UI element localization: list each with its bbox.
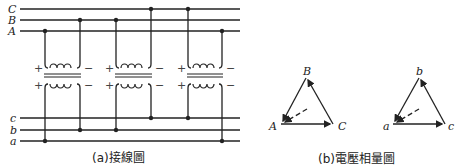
svg-text:−: −: [84, 62, 93, 75]
svg-text:+: +: [105, 79, 114, 92]
svg-text:−: −: [226, 79, 235, 92]
phasor-label-b: b: [416, 65, 423, 78]
bus-label-A: A: [7, 25, 16, 38]
caption-wiring: (a)接線圖: [92, 148, 145, 165]
phasor-label-C: C: [338, 120, 347, 133]
bus-label-a: a: [10, 135, 17, 148]
phasor-label-B: B: [302, 65, 311, 78]
svg-text:+: +: [34, 62, 43, 75]
phasor-label-c: c: [448, 120, 454, 133]
svg-text:−: −: [155, 79, 164, 92]
phasor-label-A: A: [268, 120, 277, 133]
svg-text:+: +: [34, 79, 43, 92]
wiring-diagram: C B A c b a + − + − + − + − + − + − B A …: [0, 0, 458, 167]
svg-text:−: −: [155, 62, 164, 75]
phasor-primary: [281, 78, 333, 124]
svg-text:−: −: [226, 62, 235, 75]
phasor-secondary: [393, 78, 445, 124]
svg-text:+: +: [105, 62, 114, 75]
phasor-label-a: a: [383, 120, 390, 133]
junction-dots: [43, 7, 224, 143]
svg-text:+: +: [177, 62, 186, 75]
svg-text:+: +: [177, 79, 186, 92]
caption-phasor: (b)電壓相量圖: [318, 149, 395, 166]
svg-text:−: −: [84, 79, 93, 92]
transformer-coils: [44, 64, 223, 88]
